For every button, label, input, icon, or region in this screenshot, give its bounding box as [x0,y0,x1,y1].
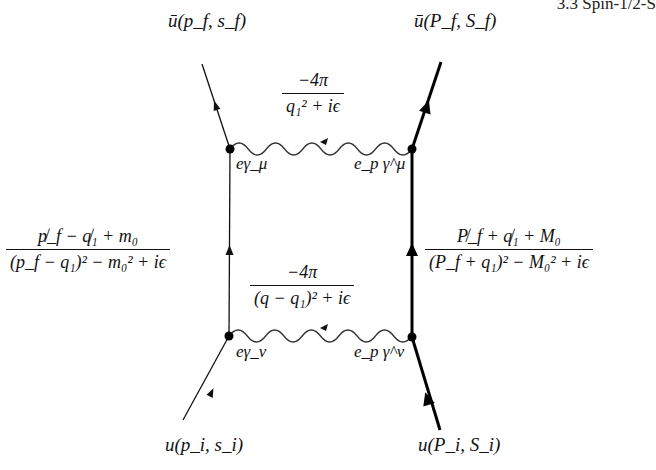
propagator-numerator: p̸_f − q̸₁ + m₀ [34,226,142,249]
vertex-proton-top-label: e_p γ^μ [354,154,405,174]
proton-incoming-line [412,337,440,430]
propagator-numerator: P̸_f + q̸₁ + M₀ [453,226,565,249]
electron-in-label: u(p_i, s_i) [165,434,243,456]
arrow-icon [226,245,234,255]
vertex-electron-top-label: eγ_μ [236,154,267,174]
arrow-icon [207,387,217,398]
proton-out-label: ū(P_f, S_f) [414,10,496,32]
photon-bottom-line [229,330,412,342]
propagator-denominator: (q − q₁)² + iϵ [250,286,354,309]
photon-bottom-propagator: −4π (q − q₁)² + iϵ [250,262,354,309]
electron-incoming-line [183,336,229,420]
propagator-numerator: −4π [283,262,321,285]
vertex-dot [225,332,234,341]
vertex-proton-bottom-label: e_p γ^ν [354,342,404,362]
propagator-denominator: (P_f + q₁)² − M₀² + iϵ [425,250,593,273]
propagator-denominator: (p_f − q₁)² − m₀² + iϵ [6,250,170,273]
arrow-icon [320,324,328,331]
electron-out-label: ū(p_f, s_f) [168,10,246,32]
arrow-icon [406,243,418,256]
arrow-icon [320,138,328,145]
propagator-denominator: q₁² + iϵ [282,94,344,117]
vertex-electron-bottom-label: eγ_ν [236,342,266,362]
electron-line [183,64,230,420]
propagator-numerator: −4π [294,70,332,93]
vertices [225,145,417,342]
photon-top-propagator: −4π q₁² + iϵ [282,70,344,117]
vertex-dot [408,333,417,342]
electron-propagator: p̸_f − q̸₁ + m₀ (p_f − q₁)² − m₀² + iϵ [6,226,170,273]
vertex-dot [408,145,417,154]
arrow-icon [211,99,221,111]
proton-in-label: u(P_i, S_i) [418,434,500,456]
electron-propagator-line [229,149,230,336]
proton-propagator: P̸_f + q̸₁ + M₀ (P_f + q₁)² − M₀² + iϵ [425,226,593,273]
vertex-dot [226,145,235,154]
